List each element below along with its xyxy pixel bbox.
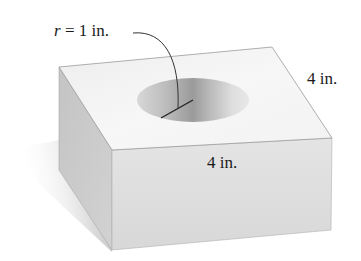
- radius-value: = 1 in.: [61, 21, 109, 40]
- block-with-hole-diagram: r = 1 in. 4 in. 4 in.: [0, 0, 361, 261]
- side-length-label: 4 in.: [207, 154, 237, 171]
- depth-label: 4 in.: [307, 70, 337, 87]
- radius-label: r = 1 in.: [54, 22, 109, 39]
- radius-variable: r: [54, 21, 61, 40]
